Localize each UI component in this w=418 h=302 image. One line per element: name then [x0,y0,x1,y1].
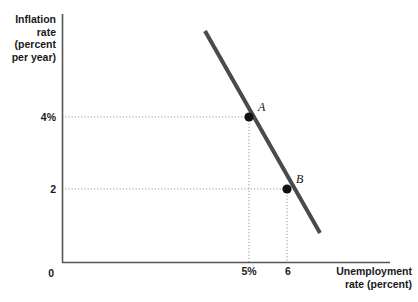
phillips-curve-figure: Inflationrate(percentper year) Unemploym… [0,0,418,302]
x-axis-title-line-2: rate (percent) [345,278,412,290]
x-tick-label-6: 6 [273,265,303,278]
guide-lines [62,117,287,262]
data-point-a-marker [244,112,253,121]
x-axis-title-line-1: Unemployment [336,265,412,277]
y-axis-title-line-3: (percent [15,38,56,50]
y-tick-label-2: 2 [16,183,56,196]
x-axis-title: Unemploymentrate (percent) [300,265,412,290]
y-axis-title-line-1: Inflation [15,13,56,25]
y-axis-title: Inflationrate(percentper year) [0,13,56,63]
axes [62,14,390,263]
data-point-label-b: B [296,172,303,187]
origin-label: 0 [30,267,54,280]
y-axis-title-line-2: rate [37,26,56,38]
x-tick-label-5: 5% [234,265,264,278]
chart-canvas [0,0,418,302]
data-point-b-marker [282,184,291,193]
y-tick-label-4: 4% [16,111,56,124]
data-point-label-a: A [258,100,265,115]
y-axis-title-line-4: per year) [12,51,56,63]
phillips-curve-line [205,31,320,233]
